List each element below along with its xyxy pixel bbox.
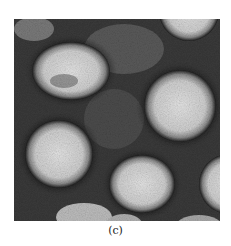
electron-micrograph-image <box>14 19 220 221</box>
figure-caption: (c) <box>0 224 231 237</box>
figure: (c) <box>0 0 231 246</box>
